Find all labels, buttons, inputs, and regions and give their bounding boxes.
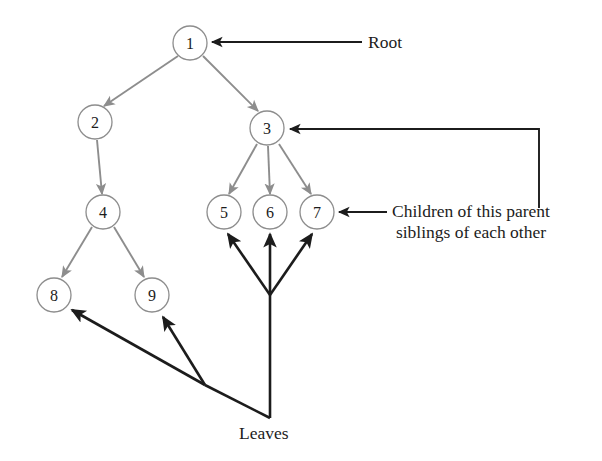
node-label: 5 — [220, 204, 228, 221]
tree-node-2[interactable]: 2 — [78, 105, 112, 139]
node-label: 1 — [186, 35, 194, 52]
annotation-leaves-arrows — [72, 234, 312, 418]
children-line-2: siblings of each other — [392, 222, 550, 243]
tree-node-5[interactable]: 5 — [207, 195, 241, 229]
tree-node-9[interactable]: 9 — [135, 278, 169, 312]
tree-node-3[interactable]: 3 — [250, 111, 284, 145]
tree-edges — [62, 56, 311, 277]
tree-node-6[interactable]: 6 — [253, 195, 287, 229]
leaves-arrow-to-8 — [72, 310, 205, 385]
leaves-branch-base — [205, 385, 270, 418]
node-label: 3 — [263, 120, 271, 137]
edge-2-4 — [97, 140, 102, 194]
node-label: 6 — [266, 204, 274, 221]
children-line-1: Children of this parent — [392, 201, 550, 221]
edge-4-9 — [114, 227, 144, 277]
annotation-label-root: Root — [368, 32, 402, 53]
node-label: 7 — [313, 204, 321, 221]
node-label: 9 — [148, 287, 156, 304]
node-label: 2 — [91, 114, 99, 131]
parent-pointer-line — [290, 129, 539, 208]
edge-4-8 — [62, 227, 92, 277]
tree-node-1[interactable]: 1 — [173, 26, 207, 60]
edge-3-5 — [229, 144, 257, 194]
leaves-arrow-to-9 — [163, 317, 205, 385]
tree-node-8[interactable]: 8 — [37, 278, 71, 312]
edge-1-2 — [104, 56, 178, 106]
annotation-label-leaves: Leaves — [239, 423, 289, 444]
edge-1-3 — [203, 56, 258, 111]
edge-3-7 — [279, 144, 311, 194]
node-label: 8 — [50, 287, 58, 304]
annotation-label-children: Children of this parentsiblings of each … — [392, 201, 550, 244]
tree-diagram: 1 2 3 4 5 6 7 — [0, 0, 602, 461]
leaves-arrow-to-5 — [228, 234, 270, 295]
tree-nodes: 1 2 3 4 5 6 7 — [37, 26, 334, 312]
node-label: 4 — [99, 204, 107, 221]
edge-3-6 — [268, 146, 270, 194]
leaves-arrow-to-7 — [270, 234, 312, 295]
tree-node-4[interactable]: 4 — [86, 195, 120, 229]
tree-node-7[interactable]: 7 — [300, 195, 334, 229]
